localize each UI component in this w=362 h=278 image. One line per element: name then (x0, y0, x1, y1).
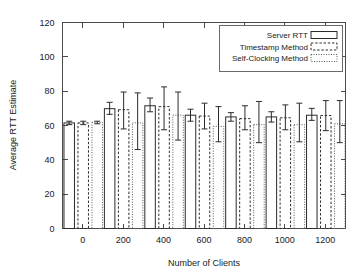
bar-group (266, 103, 305, 228)
bar (307, 115, 318, 228)
error-bar (323, 101, 329, 131)
bar-group (104, 92, 142, 228)
error-bar (256, 101, 262, 142)
bar (199, 116, 210, 228)
error-bar (147, 98, 153, 112)
error-bar (135, 93, 141, 150)
chart-container: 020406080100120 020040060080010001200 Nu… (0, 0, 362, 278)
chart-legend: Server RTTTimestamp MethodSelf-Clocking … (219, 25, 342, 72)
x-tick-label: 1200 (315, 235, 335, 245)
x-tick-label: 0 (80, 235, 85, 245)
error-bar (80, 121, 86, 124)
y-tick-label: 40 (44, 155, 54, 165)
x-tick-label: 200 (116, 235, 131, 245)
x-tick-label: 1000 (275, 235, 295, 245)
error-bar (175, 92, 181, 140)
y-tick-label: 120 (39, 18, 54, 28)
error-bar (337, 101, 343, 143)
y-tick-label: 80 (44, 86, 54, 96)
x-tick-label: 400 (156, 235, 171, 245)
bar (266, 117, 277, 229)
x-axis-title: Number of Clients (168, 258, 241, 268)
error-bar (202, 103, 208, 129)
error-bar (121, 92, 127, 129)
error-bar (309, 108, 315, 120)
bar (321, 116, 332, 229)
bar (280, 118, 291, 229)
error-bar (282, 105, 288, 130)
bar-group (185, 103, 224, 228)
x-tick-label: 600 (196, 235, 211, 245)
error-bar (242, 106, 248, 130)
bar (92, 122, 103, 228)
bar (78, 123, 89, 229)
error-bar (161, 87, 167, 130)
legend-label: Self-Clocking Method (232, 54, 308, 63)
x-tick-label: 800 (237, 235, 252, 245)
bar (145, 106, 156, 229)
error-bar (216, 107, 222, 142)
bar (104, 109, 115, 229)
legend-label: Timestamp Method (240, 43, 308, 52)
y-tick-label: 20 (44, 189, 54, 199)
y-axis-title: Average RTT Estimate (8, 80, 18, 171)
bar-group (226, 101, 265, 228)
y-tick-label: 0 (49, 224, 54, 234)
y-tick-label: 100 (39, 52, 54, 62)
bar-group (307, 101, 346, 229)
rtt-bar-chart: 020406080100120 020040060080010001200 Nu… (0, 0, 362, 278)
error-bar (296, 103, 302, 142)
legend-label: Server RTT (267, 31, 308, 40)
bar-series-group (64, 87, 345, 229)
bar (185, 115, 196, 228)
bar-group (64, 121, 103, 228)
y-tick-label: 60 (44, 121, 54, 131)
bar (64, 123, 75, 229)
bar (240, 119, 251, 229)
bar-group (145, 87, 184, 229)
bar (226, 117, 237, 229)
